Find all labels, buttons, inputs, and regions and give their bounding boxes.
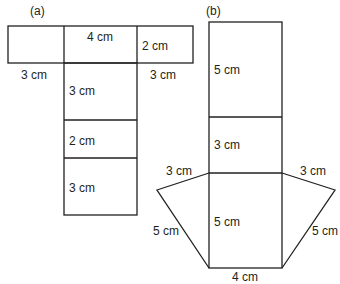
nets-diagram	[0, 0, 340, 284]
dim-b-left-slant: 5 cm	[153, 224, 179, 238]
dim-b-mid-rect: 3 cm	[214, 138, 240, 152]
net-b-right-face	[282, 173, 335, 268]
dim-a-top-right: 2 cm	[142, 39, 168, 53]
dim-b-right-slant: 5 cm	[312, 224, 338, 238]
dim-a-seg1: 3 cm	[69, 84, 95, 98]
figure-a-label: (a)	[30, 4, 45, 18]
dim-b-center-rect: 5 cm	[214, 215, 240, 229]
dim-a-seg2: 2 cm	[69, 134, 95, 148]
dim-b-left-top: 3 cm	[166, 164, 192, 178]
dim-b-bottom: 4 cm	[232, 270, 258, 284]
dim-b-top-rect: 5 cm	[214, 63, 240, 77]
dim-a-top-middle: 4 cm	[87, 30, 113, 44]
net-b-left-face	[157, 173, 209, 268]
dim-b-right-top: 3 cm	[300, 164, 326, 178]
dim-a-seg3: 3 cm	[69, 181, 95, 195]
dim-a-left-below: 3 cm	[21, 68, 47, 82]
dim-a-right-below: 3 cm	[150, 68, 176, 82]
figure-b-label: (b)	[206, 4, 221, 18]
